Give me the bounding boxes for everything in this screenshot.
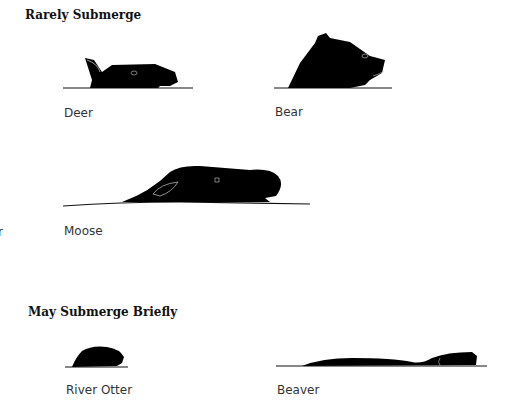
animal-label-moose: Moose [64,224,103,238]
beaver-silhouette-icon [272,348,492,370]
moose-silhouette-icon [60,162,320,212]
animal-label-deer: Deer [64,106,93,120]
deer-silhouette-icon [60,50,200,95]
bear-silhouette-icon [270,28,400,93]
river-otter-silhouette-icon [62,343,132,371]
animal-label-bear: Bear [275,105,303,119]
edge-text-fragment: r [0,225,3,239]
section-title-rarely-submerge: Rarely Submerge [25,8,141,22]
section-title-may-submerge-briefly: May Submerge Briefly [28,305,177,319]
animal-label-river-otter: River Otter [66,383,132,397]
animal-label-beaver: Beaver [277,383,319,397]
